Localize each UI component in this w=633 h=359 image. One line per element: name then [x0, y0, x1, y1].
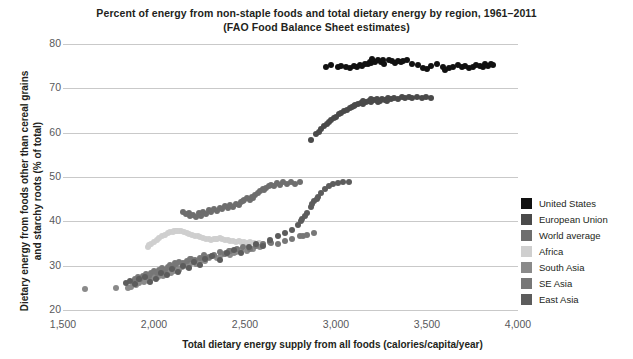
data-point [424, 66, 430, 72]
data-point [428, 95, 434, 101]
data-point [314, 196, 320, 202]
data-point [217, 257, 223, 263]
x-tick-label: 3,000 [306, 318, 366, 330]
y-axis-label: Dietary energy from foods other than cer… [18, 66, 44, 316]
data-point [197, 262, 203, 268]
data-point [289, 227, 295, 233]
gridline [63, 266, 518, 267]
plot-area [63, 44, 518, 310]
x-axis-label: Total dietary energy supply from all foo… [60, 339, 605, 350]
data-point [175, 269, 181, 275]
data-point [311, 230, 317, 236]
gridline [63, 177, 518, 178]
y-tick-label: 20 [21, 303, 61, 315]
y-tick-label: 50 [21, 170, 61, 182]
legend-label: Africa [539, 246, 563, 257]
y-tick-label: 40 [21, 214, 61, 226]
data-point [380, 57, 386, 63]
legend-item-european-union[interactable]: European Union [521, 211, 629, 227]
data-point [202, 256, 208, 262]
data-point [490, 62, 496, 68]
x-tick-label: 4,000 [488, 318, 548, 330]
legend-label: SE Asia [539, 278, 572, 289]
gridline [63, 88, 518, 89]
legend-label: United States [539, 198, 596, 209]
data-point [113, 285, 119, 291]
y-tick-label: 60 [21, 126, 61, 138]
gridline [63, 221, 518, 222]
data-point [298, 218, 304, 224]
data-point [442, 67, 448, 73]
data-point [309, 201, 315, 207]
data-point [308, 137, 314, 143]
data-point [213, 236, 219, 242]
legend-swatch-icon [521, 198, 532, 209]
y-tick-label: 80 [21, 37, 61, 49]
legend-swatch-icon [521, 294, 532, 305]
chart-legend: United StatesEuropean UnionWorld average… [521, 195, 629, 307]
legend-label: World average [539, 230, 601, 241]
legend-swatch-icon [521, 246, 532, 257]
data-point [289, 236, 295, 242]
gridline [63, 44, 518, 45]
x-tick-label: 2,000 [124, 318, 184, 330]
data-point [260, 243, 266, 249]
data-point [186, 265, 192, 271]
data-point [384, 98, 390, 104]
data-point [82, 286, 88, 292]
x-tick-label: 1,500 [33, 318, 93, 330]
legend-swatch-icon [521, 262, 532, 273]
data-point [302, 213, 308, 219]
data-point [375, 99, 381, 105]
x-tick-label: 3,500 [397, 318, 457, 330]
chart-subtitle: (FAO Food Balance Sheet estimates) [0, 20, 633, 34]
data-point [250, 195, 256, 201]
legend-label: East Asia [539, 294, 579, 305]
chart-title: Percent of energy from non-staple foods … [0, 6, 633, 20]
legend-item-africa[interactable]: Africa [521, 243, 629, 259]
y-tick-label: 70 [21, 81, 61, 93]
data-point [434, 61, 440, 67]
data-point [368, 96, 374, 102]
data-point [282, 238, 288, 244]
data-point [253, 241, 259, 247]
gridline [63, 310, 518, 311]
legend-item-se-asia[interactable]: SE Asia [521, 275, 629, 291]
legend-swatch-icon [521, 214, 532, 225]
data-point [297, 179, 303, 185]
legend-swatch-icon [521, 278, 532, 289]
chart-figure: Percent of energy from non-staple foods … [0, 0, 633, 359]
legend-item-south-asia[interactable]: South Asia [521, 259, 629, 275]
legend-item-united-states[interactable]: United States [521, 195, 629, 211]
y-tick-label: 30 [21, 259, 61, 271]
data-point [351, 103, 357, 109]
data-point [328, 62, 334, 68]
data-point [275, 241, 281, 247]
data-point [261, 187, 267, 193]
data-point [174, 228, 180, 234]
data-point [164, 272, 170, 278]
gridline [63, 133, 518, 134]
data-point [275, 233, 281, 239]
legend-label: South Asia [539, 262, 584, 273]
data-point [238, 250, 244, 256]
legend-swatch-icon [521, 230, 532, 241]
data-point [346, 179, 352, 185]
chart-title-block: Percent of energy from non-staple foods … [0, 6, 633, 34]
data-point [300, 233, 306, 239]
x-tick-label: 2,500 [215, 318, 275, 330]
legend-label: European Union [539, 214, 608, 225]
data-point [153, 276, 159, 282]
data-point [240, 198, 246, 204]
data-point [146, 242, 152, 248]
legend-item-world-average[interactable]: World average [521, 227, 629, 243]
data-point [172, 260, 178, 266]
legend-item-east-asia[interactable]: East Asia [521, 291, 629, 307]
data-point [282, 230, 288, 236]
